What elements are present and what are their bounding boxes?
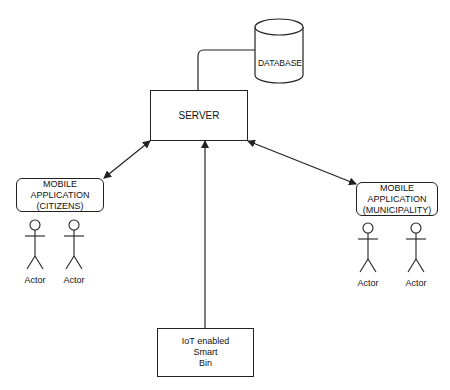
server-database-connector	[198, 50, 255, 90]
arrow-server-municipality	[248, 141, 356, 184]
actor-label: Actor	[54, 275, 94, 285]
actor-label: Actor	[348, 278, 388, 288]
arrow-server-citizens	[104, 141, 150, 178]
mobile-app-municipality-label: MOBILE APPLICATION (MUNICIPALITY)	[363, 183, 431, 216]
iot-smart-bin-node: IoT enabled Smart Bin	[157, 328, 254, 377]
database-cylinder	[255, 19, 303, 83]
actor-icon	[406, 223, 426, 272]
mobile-app-citizens-label: MOBILE APPLICATION (CITIZENS)	[31, 179, 90, 212]
actor-label: Actor	[15, 275, 55, 285]
actor-icon	[25, 220, 45, 269]
actor-label: Actor	[396, 278, 436, 288]
server-node: SERVER	[150, 90, 248, 141]
actor-icon	[64, 220, 84, 269]
iot-smart-bin-label: IoT enabled Smart Bin	[182, 336, 229, 369]
server-label: SERVER	[179, 110, 220, 121]
actor-icon	[358, 223, 378, 272]
mobile-app-municipality-node: MOBILE APPLICATION (MUNICIPALITY)	[356, 182, 438, 216]
mobile-app-citizens-node: MOBILE APPLICATION (CITIZENS)	[16, 178, 104, 212]
database-label: DATABASE	[255, 58, 305, 68]
